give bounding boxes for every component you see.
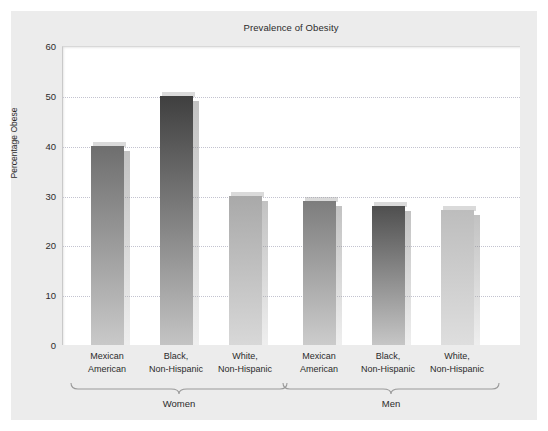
chart-figure: Prevalence of Obesity 60 50 40 30 20 10 … [0, 0, 548, 431]
x-label-line1: White, [405, 350, 509, 363]
x-axis-tick-labels: Mexican American Black, Non-Hispanic Whi… [62, 350, 520, 384]
y-tick-0: 0 [10, 340, 56, 351]
y-tick-20: 20 [10, 240, 56, 251]
bar-side-face [405, 211, 411, 346]
group-label-women: Women [70, 398, 288, 409]
bar-side-face [474, 215, 480, 345]
bar-side-face [336, 206, 342, 346]
curly-brace-icon [70, 382, 288, 395]
y-axis-title: Percentage Obese [9, 83, 19, 203]
x-axis-group-brackets: Women Men [62, 382, 520, 422]
bar-front-face [303, 201, 336, 346]
curly-brace-icon [282, 382, 500, 395]
bar-front-face [229, 196, 262, 346]
bar-women-black-non-hispanic[interactable] [160, 96, 193, 345]
chart-title: Prevalence of Obesity [62, 22, 520, 33]
bar-men-black-non-hispanic[interactable] [372, 206, 405, 346]
group-bracket-women: Women [70, 382, 288, 395]
group-label-men: Men [282, 398, 500, 409]
bar-women-mexican-american[interactable] [91, 146, 124, 345]
bar-front-face [372, 206, 405, 346]
bar-side-face [124, 151, 130, 345]
group-bracket-men: Men [282, 382, 500, 395]
x-label-line2: Non-Hispanic [405, 363, 509, 376]
bar-side-face [193, 101, 199, 345]
gridline-30 [63, 197, 520, 198]
y-tick-60: 60 [10, 41, 56, 52]
bar-women-white-non-hispanic[interactable] [229, 196, 262, 346]
y-tick-10: 10 [10, 290, 56, 301]
x-label-men-white-non-hispanic: White, Non-Hispanic [405, 350, 509, 375]
gridline-50 [63, 97, 520, 98]
bar-front-face [160, 96, 193, 345]
bar-front-face [91, 146, 124, 345]
gridline-40 [63, 147, 520, 148]
bar-men-mexican-american[interactable] [303, 201, 336, 346]
plot-area [62, 46, 520, 345]
bar-side-face [262, 201, 268, 346]
bar-front-face [441, 210, 474, 345]
bar-men-white-non-hispanic[interactable] [441, 210, 474, 345]
